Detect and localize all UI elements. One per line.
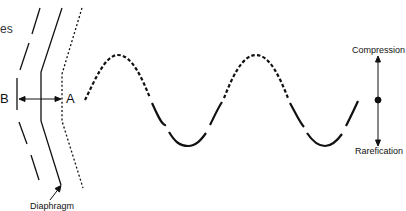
compression-rarefication-axis <box>375 56 381 146</box>
rarefication-label: Rarefication <box>355 146 403 156</box>
wave-rarefaction-trough-2 <box>307 133 342 146</box>
point-b-label: B <box>0 91 9 106</box>
displacement-arrow <box>19 97 61 102</box>
partial-label: es <box>0 22 13 36</box>
diaphragm-pointer <box>50 186 61 201</box>
diaphragm-label: Diaphragm <box>30 201 74 211</box>
compression-label: Compression <box>352 45 405 55</box>
point-a-label: A <box>66 91 75 106</box>
wave-rising-2 <box>346 101 358 126</box>
wave-rising-1 <box>210 102 222 125</box>
sound-wave <box>85 55 358 146</box>
wave-falling-2 <box>290 103 304 127</box>
wave-compression-crest-2 <box>224 55 288 98</box>
wave-rarefaction-trough-1b <box>169 132 206 146</box>
wave-rarefaction-trough-1 <box>152 103 166 125</box>
wave-compression-crest-1 <box>85 55 150 100</box>
equilibrium-point <box>375 97 381 103</box>
diaphragm-line <box>41 8 62 185</box>
diaphragm-position-b <box>17 8 40 180</box>
sound-wave-diagram <box>0 0 406 211</box>
